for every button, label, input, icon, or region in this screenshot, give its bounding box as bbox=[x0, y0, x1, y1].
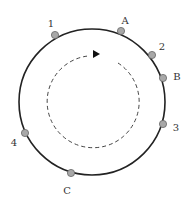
point-label-C: C bbox=[63, 185, 71, 196]
point-label-3: 3 bbox=[173, 122, 179, 133]
point-marker-A bbox=[117, 27, 124, 34]
point-label-2: 2 bbox=[159, 41, 165, 52]
point-marker-3 bbox=[159, 120, 166, 127]
point-marker-4 bbox=[21, 129, 28, 136]
ring-diagram: 1A2B34C bbox=[0, 0, 188, 200]
point-label-1: 1 bbox=[48, 18, 54, 29]
dashed-direction-arc bbox=[47, 56, 139, 148]
direction-arrow-icon bbox=[93, 50, 100, 58]
point-label-A: A bbox=[120, 15, 129, 26]
point-marker-2 bbox=[148, 51, 155, 58]
point-marker-B bbox=[159, 74, 166, 81]
outer-circle bbox=[19, 29, 165, 175]
point-label-B: B bbox=[173, 71, 180, 82]
point-marker-1 bbox=[51, 31, 58, 38]
point-label-4: 4 bbox=[11, 137, 17, 148]
point-marker-C bbox=[67, 169, 74, 176]
